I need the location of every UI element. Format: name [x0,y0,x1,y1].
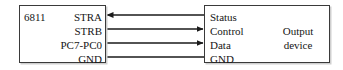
device-signal-status: Status [210,11,237,23]
output-device-box: Status Control Data GND Output device [204,5,330,63]
device-signal-data: Data [210,39,231,51]
mcu-pin-stra: STRA [74,11,102,23]
mcu-name-label: 6811 [24,11,46,23]
device-name-line2: device [267,38,329,52]
device-signal-gnd: GND [210,53,234,65]
device-name-line1: Output [267,24,329,38]
mcu-pin-pc7-pc0: PC7-PC0 [60,39,102,51]
device-signal-control: Control [210,25,244,37]
mcu-box: 6811 STRA STRB PC7-PC0 GND [19,5,106,63]
mcu-pin-gnd: GND [78,53,102,65]
block-diagram: 6811 STRA STRB PC7-PC0 GND Status Contro… [0,0,343,70]
mcu-pin-strb: STRB [74,25,102,37]
device-name-label: Output device [267,24,329,52]
